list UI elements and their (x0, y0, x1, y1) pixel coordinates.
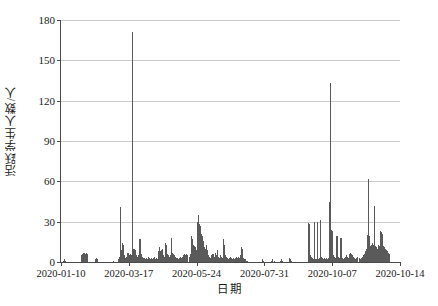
x-tick-label: 2020-07-31 (240, 269, 289, 280)
bar-series (61, 20, 400, 262)
bar (263, 261, 264, 262)
plot-area: 0306090120150180 2020-01-102020-03-17202… (60, 20, 400, 263)
bar (97, 259, 98, 262)
x-axis-title: 日期 (60, 284, 400, 296)
y-axis-title: 活跃学生人数/人 (0, 0, 24, 262)
y-tick-label: 30 (44, 216, 55, 227)
y-axis-title-text: 活跃学生人数/人 (6, 85, 18, 176)
y-tick-label: 180 (39, 15, 56, 26)
bar (274, 261, 275, 262)
y-tick-label: 120 (39, 95, 56, 106)
bar (87, 254, 88, 262)
y-tick-label: 0 (50, 257, 56, 268)
x-tick-mark (61, 262, 62, 266)
x-tick-mark (264, 262, 265, 266)
bar (132, 32, 133, 262)
y-tick-label: 150 (39, 55, 56, 66)
bar (65, 261, 66, 262)
x-tick-mark (197, 262, 198, 266)
bar (113, 261, 114, 262)
x-tick-mark (400, 262, 401, 266)
x-tick-label: 2020-01-10 (37, 269, 86, 280)
bar (247, 261, 248, 262)
y-tick-label: 90 (44, 136, 55, 147)
x-tick-label: 2020-10-07 (308, 269, 357, 280)
bar (291, 261, 292, 262)
bar (389, 254, 390, 262)
bar (314, 222, 315, 262)
x-tick-label: 2020-10-14 (376, 269, 425, 280)
bar (282, 261, 283, 262)
bar (317, 222, 318, 262)
x-tick-mark (129, 262, 130, 266)
x-tick-label: 2020-05-24 (172, 269, 221, 280)
y-tick-label: 60 (44, 176, 55, 187)
x-tick-label: 2020-03-17 (104, 269, 153, 280)
x-tick-mark (332, 262, 333, 266)
chart-container: 活跃学生人数/人 0306090120150180 2020-01-102020… (0, 0, 438, 306)
